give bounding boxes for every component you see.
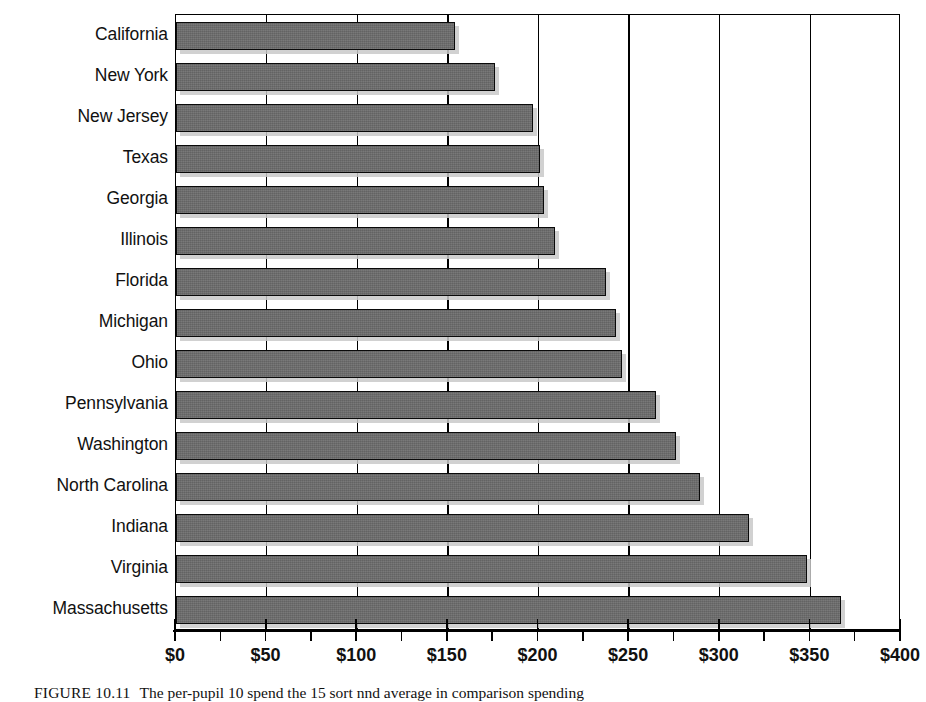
x-axis-minor-tick (265, 632, 267, 641)
bar (176, 596, 841, 624)
y-axis-label: New York (0, 67, 168, 85)
x-axis-minor-tick (673, 632, 675, 641)
bar-chart: CaliforniaNew YorkNew JerseyTexasGeorgia… (0, 0, 926, 702)
y-axis-category-labels: CaliforniaNew YorkNew JerseyTexasGeorgia… (0, 14, 168, 630)
x-axis-major-tick (627, 619, 629, 630)
x-axis-minor-tick (582, 632, 584, 641)
y-axis-label: Georgia (0, 190, 168, 208)
y-axis-label: Illinois (0, 231, 168, 249)
x-axis-tick-label: $350 (764, 646, 854, 664)
x-axis-tick-label: $150 (402, 646, 492, 664)
x-axis-major-tick (355, 619, 357, 630)
y-axis-label: California (0, 26, 168, 44)
x-axis-minor-tick (537, 632, 539, 641)
x-axis-tick-label: $100 (311, 646, 401, 664)
plot-area (175, 14, 900, 630)
x-axis-minor-tick (174, 632, 176, 641)
x-axis-minor-tick (355, 632, 357, 641)
x-axis-minor-tick (718, 632, 720, 641)
bar (176, 22, 455, 50)
x-axis-tick-label: $0 (130, 646, 220, 664)
x-axis-major-tick (809, 619, 811, 630)
bar (176, 309, 616, 337)
x-axis-major-tick (899, 619, 901, 630)
y-axis-label: Ohio (0, 354, 168, 372)
x-axis-major-tick (265, 619, 267, 630)
y-axis-label: Pennsylvania (0, 395, 168, 413)
x-axis-major-tick (537, 619, 539, 630)
x-axis-minor-tick (854, 632, 856, 641)
figure-caption: FIGURE 10.11The per-pupil 10 spend the 1… (34, 684, 914, 702)
bar (176, 350, 622, 378)
x-axis-tick-labels: $0$50$100$150$200$250$300$350$400 (0, 646, 926, 672)
y-axis-label: Washington (0, 436, 168, 454)
x-axis-tick-label: $250 (583, 646, 673, 664)
x-axis-tick-label: $200 (493, 646, 583, 664)
bar (176, 227, 555, 255)
x-axis-tick-label: $50 (221, 646, 311, 664)
y-axis-label: Massachusetts (0, 600, 168, 618)
x-axis-major-tick (718, 619, 720, 630)
bar (176, 391, 656, 419)
x-axis-minor-tick (627, 632, 629, 641)
y-axis-label: Florida (0, 272, 168, 290)
x-axis-major-tick (446, 619, 448, 630)
bar (176, 514, 749, 542)
x-axis-tick-label: $400 (855, 646, 926, 664)
x-axis-minor-tick (491, 632, 493, 641)
bar (176, 555, 807, 583)
bar (176, 145, 540, 173)
y-axis-label: Michigan (0, 313, 168, 331)
x-axis (175, 630, 900, 633)
y-axis-label: Virginia (0, 559, 168, 577)
x-axis-major-tick (174, 619, 176, 630)
x-axis-minor-tick (220, 632, 222, 641)
x-axis-minor-tick (899, 632, 901, 641)
bar (176, 268, 606, 296)
y-axis-label: North Carolina (0, 477, 168, 495)
x-axis-minor-tick (401, 632, 403, 641)
x-axis-tick-label: $300 (674, 646, 764, 664)
figure-caption-text: The per-pupil 10 spend the 15 sort nnd a… (140, 684, 584, 701)
bar (176, 63, 495, 91)
x-axis-minor-tick (763, 632, 765, 641)
x-axis-minor-tick (809, 632, 811, 641)
figure-caption-label: FIGURE 10.11 (34, 684, 131, 701)
x-axis-minor-tick (446, 632, 448, 641)
y-axis-label: New Jersey (0, 108, 168, 126)
x-axis-minor-tick (310, 632, 312, 641)
bar (176, 104, 533, 132)
bar-series (176, 15, 899, 629)
y-axis-label: Indiana (0, 518, 168, 536)
y-axis-label: Texas (0, 149, 168, 167)
bar (176, 186, 544, 214)
bar (176, 432, 676, 460)
bar (176, 473, 700, 501)
